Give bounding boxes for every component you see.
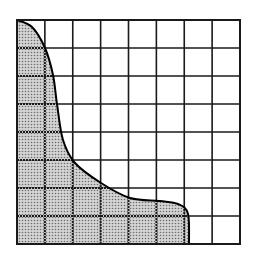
diagram-canvas [0, 0, 256, 269]
shaded-grid-diagram [0, 0, 256, 269]
